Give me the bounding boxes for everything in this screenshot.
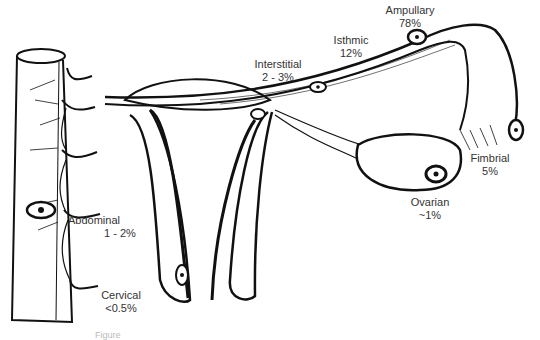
label-isthmic: Isthmic 12% bbox=[318, 34, 384, 60]
label-interstitial: Interstitial 2 - 3% bbox=[240, 58, 316, 84]
label-ampullary-value: 78% bbox=[372, 17, 448, 30]
label-ampullary-name: Ampullary bbox=[372, 4, 448, 17]
label-ampullary: Ampullary 78% bbox=[372, 4, 448, 30]
label-interstitial-name: Interstitial bbox=[240, 58, 316, 71]
uterus-drawing bbox=[125, 79, 272, 301]
interstitial-gestation-icon bbox=[251, 109, 265, 119]
label-isthmic-value: 12% bbox=[318, 47, 384, 60]
label-cervical-name: Cervical bbox=[96, 289, 146, 302]
label-abdominal-name: Abdominal bbox=[68, 214, 148, 227]
label-fimbrial-value: 5% bbox=[462, 165, 518, 178]
label-fimbrial: Fimbrial 5% bbox=[462, 152, 518, 178]
label-abdominal: Abdominal 1 - 2% bbox=[68, 214, 148, 240]
label-isthmic-name: Isthmic bbox=[318, 34, 384, 47]
label-ovarian: Ovarian ~1% bbox=[400, 196, 460, 222]
ovary-drawing bbox=[357, 134, 461, 190]
label-cervical: Cervical <0.5% bbox=[96, 289, 146, 315]
figure-caption: Figure bbox=[95, 330, 121, 340]
label-ovarian-value: ~1% bbox=[400, 209, 460, 222]
label-ovarian-name: Ovarian bbox=[400, 196, 460, 209]
label-cervical-value: <0.5% bbox=[96, 302, 146, 315]
label-abdominal-value: 1 - 2% bbox=[68, 227, 148, 240]
bowel-drawing bbox=[12, 49, 100, 322]
ovarian-ligament bbox=[275, 110, 362, 160]
label-interstitial-value: 2 - 3% bbox=[240, 71, 316, 84]
label-fimbrial-name: Fimbrial bbox=[462, 152, 518, 165]
